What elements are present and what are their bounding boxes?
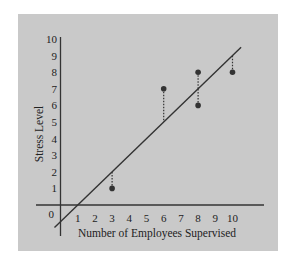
data-point <box>230 69 236 75</box>
y-tick-label: 3 <box>52 149 58 161</box>
x-tick-label: 8 <box>195 212 201 224</box>
data-point <box>109 186 115 192</box>
y-tick-label: 5 <box>52 116 58 128</box>
data-point <box>195 69 201 75</box>
y-tick-label: 9 <box>52 50 58 62</box>
x-tick-label: 9 <box>213 212 219 224</box>
regression-line <box>54 47 241 227</box>
x-tick-label: 10 <box>227 212 239 224</box>
y-tick-label: 0 <box>49 208 55 220</box>
x-tick-label: 3 <box>109 212 115 224</box>
y-tick-label: 10 <box>46 33 58 45</box>
y-tick-label: 4 <box>52 133 58 145</box>
y-tick-label: 7 <box>52 83 58 95</box>
scatter-chart: 12345678910012345678910Number of Employe… <box>0 0 293 264</box>
x-axis-label: Number of Employees Supervised <box>78 227 236 240</box>
x-tick-label: 6 <box>161 212 167 224</box>
y-tick-label: 2 <box>52 166 58 178</box>
y-tick-label: 6 <box>52 99 58 111</box>
y-tick-label: 1 <box>52 182 58 194</box>
y-axis-label: Stress Level <box>33 106 45 163</box>
x-tick-label: 5 <box>144 212 150 224</box>
y-tick-label: 8 <box>52 66 58 78</box>
data-point <box>161 86 167 92</box>
data-point <box>195 103 201 109</box>
x-tick-label: 2 <box>92 212 98 224</box>
x-tick-label: 7 <box>178 212 184 224</box>
x-tick-label: 4 <box>127 212 133 224</box>
x-tick-label: 1 <box>75 212 81 224</box>
